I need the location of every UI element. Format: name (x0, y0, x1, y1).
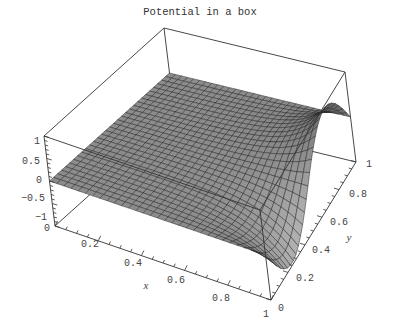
y-tick-label: 0.2 (296, 273, 314, 284)
y-tick-label: 0.4 (312, 245, 330, 256)
tick-mark (120, 245, 122, 248)
x-tick-label: 0.8 (212, 293, 230, 304)
tick-mark (332, 196, 335, 197)
box-edge (345, 72, 356, 162)
tick-mark (306, 237, 309, 238)
tick-mark (131, 249, 133, 252)
y-axis-name: y (346, 231, 352, 243)
tick-mark (141, 251, 144, 256)
tick-mark (47, 159, 52, 161)
tick-mark (283, 271, 288, 273)
tick-mark (281, 278, 284, 279)
tick-mark (311, 230, 314, 231)
tick-mark (349, 168, 352, 169)
z-axis-labels: 1 0.5 0 −0.5 −1 (21, 136, 47, 223)
tick-mark (340, 182, 343, 183)
z-tick-label: 1 (34, 136, 40, 147)
tick-mark (249, 290, 251, 293)
tick-mark (206, 275, 208, 278)
tick-mark (315, 223, 318, 224)
y-tick-label: 1 (366, 159, 372, 170)
z-tick-label: −0.5 (21, 193, 45, 204)
tick-mark (163, 260, 165, 263)
x-tick-label: 0.6 (167, 275, 185, 286)
x-origin-label: 0 (44, 223, 50, 234)
x-tick-label: 0.4 (124, 258, 142, 269)
z-tick-label: −1 (35, 212, 47, 223)
tick-mark (52, 204, 57, 206)
x-axis-labels: 0.2 0.4 0.6 0.8 1 (81, 239, 269, 320)
tick-mark (77, 230, 79, 233)
tick-mark (66, 227, 68, 230)
tick-mark (195, 271, 197, 274)
tick-mark (334, 188, 339, 190)
tick-mark (277, 285, 280, 286)
tick-mark (174, 264, 176, 267)
tick-mark (217, 279, 219, 282)
tick-mark (260, 293, 262, 296)
tick-mark (239, 286, 241, 289)
tick-mark (272, 292, 275, 293)
tick-mark (345, 175, 348, 176)
tick-mark (152, 256, 154, 259)
tick-mark (328, 203, 331, 204)
x-tick-label: 0.2 (81, 239, 99, 250)
tick-mark (317, 216, 322, 218)
tick-mark (323, 209, 326, 210)
y-tick-label: 0 (278, 303, 284, 314)
box-edge (164, 28, 345, 72)
tick-mark (300, 243, 305, 245)
y-tick-label: 0.8 (349, 189, 367, 200)
tick-mark (228, 280, 231, 285)
x-axis-name: x (143, 279, 149, 291)
tick-mark (87, 234, 89, 237)
x-tick-label: 1 (263, 309, 269, 320)
tick-mark (185, 265, 188, 270)
z-tick-label: 0.5 (22, 156, 40, 167)
tick-mark (271, 295, 274, 300)
z-tick-label: 0 (36, 175, 42, 186)
y-tick-label: 0.6 (330, 217, 348, 228)
tick-mark (109, 242, 111, 245)
surface-plot: Potential in a box 1 0.5 0 −0.5 −1 0 0.2… (0, 0, 396, 334)
chart-title: Potential in a box (143, 6, 256, 18)
tick-mark (298, 251, 301, 252)
